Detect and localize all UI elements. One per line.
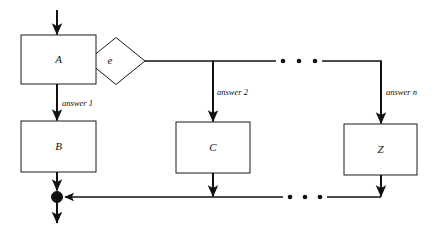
bottom-ellipsis-dot-2 [303,195,308,200]
merge-point [52,192,63,203]
top-ellipsis-dot-1 [281,59,286,64]
flowchart-svg: A e answer 1 answer 2 answer n B C Z [0,0,439,235]
edge-label-answer-n: answer n [386,87,417,97]
node-label-b: B [55,140,62,152]
node-label-e: e [108,54,113,66]
bottom-ellipsis-dot-1 [288,195,293,200]
top-ellipsis-dot-2 [297,59,302,64]
bottom-ellipsis-dot-3 [318,195,323,200]
top-ellipsis-dot-3 [313,59,318,64]
node-label-z: Z [377,143,384,155]
node-label-c: C [209,141,217,153]
edge-label-answer-2: answer 2 [217,87,249,97]
edge-label-answer-1: answer 1 [62,98,93,108]
flowchart-canvas: A e answer 1 answer 2 answer n B C Z [0,0,439,235]
node-label-a: A [54,53,62,65]
